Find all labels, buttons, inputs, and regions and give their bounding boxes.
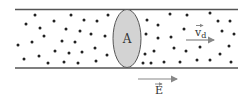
charge-dot — [70, 14, 73, 17]
charge-dot — [25, 23, 28, 26]
charge-dot — [228, 45, 231, 48]
charge-dot — [95, 60, 98, 63]
electric-field-label: E — [155, 84, 163, 97]
charge-dot — [142, 62, 145, 65]
conductor-diagram: A vd E — [0, 0, 251, 103]
charge-dot — [144, 53, 147, 56]
charge-dot — [209, 59, 212, 62]
charge-dot — [229, 20, 232, 23]
charge-dot — [146, 19, 149, 22]
charge-dot — [23, 58, 26, 61]
charge-dot — [81, 51, 84, 54]
charge-dot — [39, 27, 42, 30]
charge-dot — [83, 19, 86, 22]
charge-dot — [106, 54, 109, 57]
charge-dot — [61, 40, 64, 43]
charge-dot — [183, 28, 186, 31]
charge-dot — [169, 13, 172, 16]
diagram-canvas: A vd E — [0, 0, 251, 103]
charge-dot — [157, 37, 160, 40]
charge-dot — [68, 52, 71, 55]
charge-dot — [31, 41, 34, 44]
charge-dot — [145, 33, 148, 36]
charge-dot — [221, 30, 224, 33]
charge-dot — [90, 33, 93, 36]
cross-section-label: A — [122, 32, 132, 46]
charge-dot — [230, 61, 233, 64]
charge-dot — [209, 12, 212, 15]
charge-dot — [173, 47, 176, 50]
charge-dot — [199, 46, 202, 49]
charge-dot — [163, 61, 166, 64]
charge-dot — [79, 30, 82, 33]
charge-dot — [54, 50, 57, 53]
charge-dot — [77, 62, 80, 65]
charge-dot — [196, 59, 199, 62]
charge-dot — [47, 62, 50, 65]
charge-dot — [185, 50, 188, 53]
charge-dot — [94, 47, 97, 50]
charge-dot — [17, 44, 20, 47]
charge-dot — [233, 33, 236, 36]
charge-dot — [96, 20, 99, 23]
charge-dot — [65, 28, 68, 31]
charge-dot — [150, 62, 153, 65]
charge-dot — [153, 50, 156, 53]
charge-dot — [217, 20, 220, 23]
charge-dot — [43, 35, 46, 38]
charge-dot — [219, 53, 222, 56]
charge-dot — [53, 20, 56, 23]
charge-dot — [170, 36, 173, 39]
charge-dot — [157, 24, 160, 27]
drift-velocity-label: vd — [194, 26, 206, 40]
charge-dot — [179, 61, 182, 64]
charge-dot — [38, 55, 41, 58]
charge-dot — [107, 14, 110, 17]
charge-dot — [63, 61, 66, 64]
charge-dot — [186, 14, 189, 17]
charge-dot — [104, 35, 107, 38]
charge-dot — [74, 41, 77, 44]
charge-dot — [34, 14, 37, 17]
